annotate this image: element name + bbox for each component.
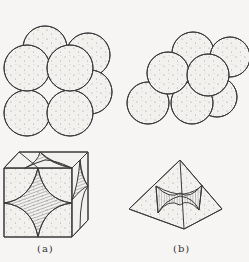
panel-b-sphere-cluster — [127, 32, 249, 124]
panel-b-pyramid-void — [129, 160, 222, 229]
panel-a-cube-void — [4, 152, 88, 237]
panel-a-label: (a) — [37, 243, 54, 254]
figure-drawing — [0, 0, 249, 262]
panel-a-sphere-cluster — [4, 26, 112, 136]
panel-b-label: (b) — [173, 243, 190, 254]
crystal-packing-figure: (a) (b) — [0, 0, 249, 262]
